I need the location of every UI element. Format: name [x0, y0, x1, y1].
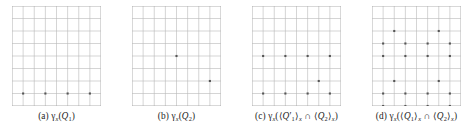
- panel-d-label: (d): [376, 111, 387, 121]
- panel-b-grid-svg: [132, 6, 221, 106]
- lattice-point-dot: [22, 92, 24, 94]
- q2-symbol-d: Q: [437, 111, 444, 121]
- lattice-point-dot: [382, 105, 384, 106]
- lattice-point-dot: [393, 80, 395, 82]
- lattice-point-dot: [427, 42, 429, 44]
- lattice-point-dot: [89, 92, 91, 94]
- lattice-point-dot: [449, 105, 451, 106]
- lattice-point-dot: [404, 105, 406, 106]
- lattice-point-dot: [382, 92, 384, 94]
- lattice-point-dot: [67, 92, 69, 94]
- panel-b-caption: (b)γx(Q2): [158, 111, 195, 123]
- lattice-point-dot: [329, 92, 331, 94]
- panel-a-label: (a): [38, 111, 49, 121]
- panel-a-caption: (a)γx(Q1): [38, 111, 75, 123]
- lattice-point-dot: [44, 92, 46, 94]
- panel-d-grid-svg: [372, 6, 461, 106]
- lattice-point-dot: [438, 30, 440, 32]
- intersect-symbol-d: ∩: [421, 111, 433, 121]
- lattice-point-dot: [382, 55, 384, 57]
- lattice-point-dot: [307, 55, 309, 57]
- panel-d-grid: [372, 6, 461, 106]
- intersect-symbol-c: ∩: [302, 111, 314, 121]
- panel-d: (d)γx(⟨Q1⟩x ∩ ⟨Q2⟩x): [360, 0, 473, 137]
- panel-b-grid: [132, 6, 221, 106]
- lattice-point-dot: [329, 55, 331, 57]
- lattice-point-dot: [307, 92, 309, 94]
- q1-symbol-d: Q: [404, 111, 411, 121]
- lattice-point-dot: [427, 105, 429, 106]
- lattice-point-dot: [404, 55, 406, 57]
- lattice-point-dot: [262, 55, 264, 57]
- panel-a: (a)γx(Q1): [0, 0, 113, 137]
- lattice-point-dot: [318, 80, 320, 82]
- panel-c: (c)γx(⟨Q′1⟩x ∩ ⟨Q2⟩x): [240, 0, 353, 137]
- paren-close-d: ): [454, 111, 457, 121]
- panel-c-grid-svg: [252, 6, 341, 106]
- lattice-point-dot: [449, 55, 451, 57]
- q-symbol-b: Q: [182, 111, 189, 121]
- lattice-point-dot: [404, 92, 406, 94]
- lattice-point-dot: [404, 42, 406, 44]
- lattice-point-dot: [209, 80, 211, 82]
- figure-container: (a)γx(Q1) (b)γx(Q2) (c)γx(⟨Q′1⟩x ∩ ⟨Q2⟩x…: [0, 0, 473, 137]
- panel-a-grid-svg: [12, 6, 101, 106]
- paren-close-b: ): [192, 111, 195, 121]
- panel-c-caption: (c)γx(⟨Q′1⟩x ∩ ⟨Q2⟩x): [255, 111, 338, 123]
- panel-b: (b)γx(Q2): [120, 0, 233, 137]
- paren-close-c: ): [335, 111, 338, 121]
- lattice-point-dot: [427, 55, 429, 57]
- lattice-point-dot: [438, 80, 440, 82]
- paren-close-a: ): [72, 111, 75, 121]
- panel-c-label: (c): [255, 111, 266, 121]
- lattice-point-dot: [393, 30, 395, 32]
- panel-b-label: (b): [158, 111, 169, 121]
- grid-lines-a: [12, 6, 101, 106]
- lattice-point-dot: [284, 92, 286, 94]
- lattice-point-dot: [175, 55, 177, 57]
- panel-c-grid: [252, 6, 341, 106]
- lattice-point-dot: [284, 55, 286, 57]
- panel-d-caption: (d)γx(⟨Q1⟩x ∩ ⟨Q2⟩x): [376, 111, 457, 123]
- lattice-point-dot: [449, 92, 451, 94]
- lattice-point-dot: [449, 42, 451, 44]
- lattice-point-dot: [382, 42, 384, 44]
- grid-lines-d: [372, 6, 461, 106]
- lattice-point-dot: [427, 92, 429, 94]
- lattice-point-dot: [262, 92, 264, 94]
- grid-lines-c: [252, 6, 341, 106]
- panel-a-grid: [12, 6, 101, 106]
